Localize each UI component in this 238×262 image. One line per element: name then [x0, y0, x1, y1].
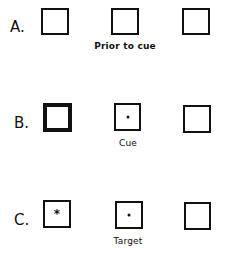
- fixation-dot-icon: [128, 214, 131, 217]
- caption-prior-to-cue: Prior to cue: [85, 41, 165, 51]
- fixation-dot-icon: [126, 116, 129, 119]
- box-a-right: [182, 8, 210, 35]
- box-c-right: [184, 202, 211, 230]
- box-b-center: [114, 103, 141, 131]
- box-b-left-cued: [43, 103, 72, 132]
- caption-target: Target: [88, 236, 168, 246]
- caption-cue: Cue: [88, 138, 168, 148]
- box-c-left: *: [43, 200, 71, 228]
- box-b-right: [183, 105, 211, 133]
- box-c-center: [115, 201, 143, 229]
- row-label-b: B.: [14, 116, 29, 131]
- box-a-center: [111, 8, 139, 35]
- row-label-a: A.: [10, 20, 25, 35]
- target-asterisk-icon: *: [54, 208, 60, 220]
- box-a-left: [41, 8, 69, 35]
- row-label-c: C.: [14, 213, 29, 228]
